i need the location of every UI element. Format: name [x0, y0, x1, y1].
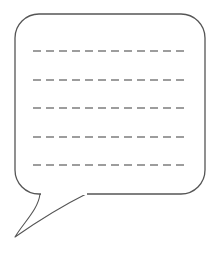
speech-bubble-svg [0, 0, 218, 255]
speech-bubble-illustration [0, 0, 218, 255]
speech-bubble-body [15, 14, 205, 194]
